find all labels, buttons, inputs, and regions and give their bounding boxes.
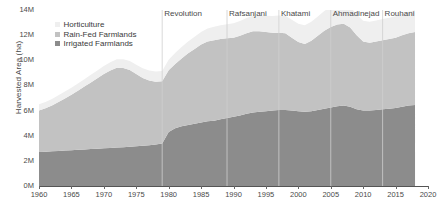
y-tick-label: 14M	[0, 6, 34, 14]
legend-label: Horticulture	[64, 20, 105, 30]
event-label-rouhani: Rouhani	[385, 10, 415, 18]
x-tick-label: 1995	[251, 191, 281, 199]
x-tick-mark	[396, 186, 397, 189]
x-tick-label: 1985	[186, 191, 216, 199]
x-tick-label: 2000	[283, 191, 313, 199]
event-label-rafsanjani: Rafsanjani	[229, 10, 267, 18]
x-tick-label: 1990	[219, 191, 249, 199]
legend-item[interactable]: Rain-Fed Farmlands	[55, 30, 136, 40]
legend-item[interactable]: Horticulture	[55, 20, 136, 30]
legend-item[interactable]: Irrigated Farmlands	[55, 39, 136, 49]
y-tick-label: 12M	[0, 31, 34, 39]
x-tick-label: 1960	[24, 191, 54, 199]
x-tick-mark	[71, 186, 72, 189]
x-tick-label: 1965	[56, 191, 86, 199]
event-label-khatami: Khatami	[281, 10, 310, 18]
event-label-revolution: Revolution	[164, 10, 202, 18]
y-tick-label: 10M	[0, 56, 34, 64]
legend-swatch-icon	[55, 32, 60, 37]
x-tick-mark	[39, 186, 40, 189]
x-tick-label: 1975	[121, 191, 151, 199]
x-tick-mark	[363, 186, 364, 189]
x-tick-mark	[266, 186, 267, 189]
x-tick-label: 2010	[348, 191, 378, 199]
x-tick-mark	[104, 186, 105, 189]
x-tick-label: 1980	[154, 191, 184, 199]
chart-legend: HorticultureRain-Fed FarmlandsIrrigated …	[55, 20, 136, 49]
y-tick-label: 0M	[0, 182, 34, 190]
x-tick-mark	[298, 186, 299, 189]
event-label-ahmadinejad: Ahmadinejad	[333, 10, 380, 18]
x-tick-mark	[201, 186, 202, 189]
y-tick-label: 6M	[0, 107, 34, 115]
legend-swatch-icon	[55, 41, 60, 46]
x-tick-mark	[331, 186, 332, 189]
x-tick-label: 2020	[413, 191, 441, 199]
x-tick-label: 2005	[316, 191, 346, 199]
y-tick-label: 4M	[0, 132, 34, 140]
legend-label: Irrigated Farmlands	[64, 39, 133, 49]
x-tick-label: 2015	[381, 191, 411, 199]
legend-label: Rain-Fed Farmlands	[64, 30, 137, 40]
y-tick-label: 2M	[0, 157, 34, 165]
y-tick-label: 8M	[0, 81, 34, 89]
x-tick-mark	[234, 186, 235, 189]
x-tick-mark	[136, 186, 137, 189]
x-tick-label: 1970	[89, 191, 119, 199]
y-axis-tick-labels: 0M2M4M6M8M10M12M14M	[0, 0, 34, 215]
x-tick-mark	[428, 186, 429, 189]
x-tick-mark	[169, 186, 170, 189]
legend-swatch-icon	[55, 22, 60, 27]
